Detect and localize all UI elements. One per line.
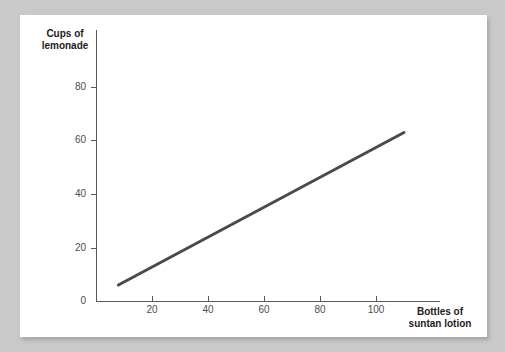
chart-screenshot: 80 60 40 20 0 20 40 60 80 100 Cups of le… xyxy=(0,0,505,352)
line-series-lemonade xyxy=(118,132,404,284)
series-layer xyxy=(0,0,505,352)
plot-area: 80 60 40 20 0 20 40 60 80 100 Cups of le… xyxy=(0,0,505,352)
